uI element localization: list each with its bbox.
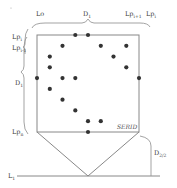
point-11: [73, 76, 77, 80]
funnel: [37, 132, 139, 176]
label-serid: SERID: [117, 123, 137, 130]
point-16: [86, 119, 90, 123]
point-2: [60, 44, 64, 48]
point-10: [60, 76, 64, 80]
point-6: [111, 55, 115, 59]
point-0: [73, 33, 77, 37]
point-12: [137, 76, 141, 80]
point-15: [73, 108, 77, 112]
point-8: [124, 65, 128, 69]
label-lp-i-left: Lpi: [12, 33, 22, 42]
label-lo: Lo: [36, 10, 44, 18]
stray-mark: [10, 7, 11, 8]
main-square: [37, 35, 139, 132]
label-d2-2: D2/2: [154, 149, 167, 158]
top-brace: [32, 19, 150, 28]
point-3: [99, 44, 103, 48]
point-5: [48, 55, 52, 59]
label-lp-i-top: Lpi: [146, 10, 156, 19]
point-7: [48, 65, 52, 69]
label-lp-n: Lpn: [12, 128, 23, 137]
point-1: [86, 33, 90, 37]
label-d1-top: D1: [83, 10, 91, 19]
label-l1-baseline: L1: [8, 172, 15, 181]
point-17: [99, 119, 103, 123]
right-height-marker: [140, 136, 151, 176]
label-lp-i-plus-1: Lpi+1: [125, 10, 142, 19]
label-d1-left: D1: [15, 79, 23, 88]
point-4: [124, 44, 128, 48]
point-14: [60, 98, 64, 102]
point-18: [86, 130, 90, 134]
points-group: [35, 33, 141, 134]
diagram-canvas: Lo D1 Lpi+1 Lpi Lpi Lpi-1 D1 Lpn SERID D…: [0, 0, 177, 188]
point-13: [48, 87, 52, 91]
point-9: [35, 76, 39, 80]
